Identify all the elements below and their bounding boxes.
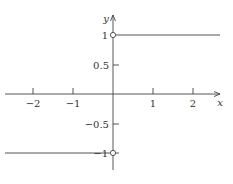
x-tick-label: −1 (66, 98, 81, 109)
x-tick-label: 1 (150, 98, 156, 109)
y-tick-label: −0.5 (85, 119, 109, 130)
y-axis-label: y (102, 13, 109, 24)
y-tick-label: 1 (102, 30, 108, 41)
open-circle-bottom-icon (110, 150, 115, 155)
x-tick-label: −2 (26, 98, 41, 109)
y-tick-label: −1 (93, 148, 108, 159)
x-axis-label: x (217, 97, 223, 108)
step-function-chart: −2 −1 1 2 x 1 0.5 −0.5 −1 y (0, 0, 233, 184)
open-circle-top-icon (110, 32, 115, 37)
y-tick-label: 0.5 (93, 60, 109, 71)
x-tick-label: 2 (190, 98, 196, 109)
